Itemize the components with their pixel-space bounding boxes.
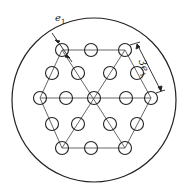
tube-layout-svg (0, 0, 185, 189)
tube-hole (72, 67, 85, 80)
pitch-label: e1 (55, 13, 65, 26)
diagram-canvas: e1 3e1 (0, 0, 185, 189)
tube-hole (72, 118, 85, 131)
tube-hole (46, 67, 59, 80)
tube-hole (46, 118, 59, 131)
pitch-dimension (52, 33, 72, 62)
